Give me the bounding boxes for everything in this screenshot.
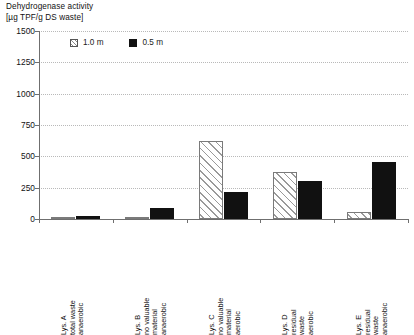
bar-c-05 — [224, 192, 248, 219]
y-tick-label-1000: 1000 — [1, 89, 35, 99]
bar-a-10 — [51, 217, 75, 219]
x-axis-category-labels: Lys. A total waste anaerobicLys. B no va… — [39, 221, 408, 279]
y-tick-label-250: 250 — [1, 183, 35, 193]
chart-title: Dehydrogenase activity [µg TPF/g DS wast… — [6, 2, 93, 23]
x-category-label-b: Lys. B no valuable material anaerobic — [134, 277, 150, 335]
bar-b-10 — [125, 217, 149, 219]
x-category-label-c: Lys. C no valuable material aerobic — [208, 277, 224, 335]
bar-d-10 — [273, 172, 297, 219]
bar-e-05 — [372, 162, 396, 219]
y-tick-label-1500: 1500 — [1, 26, 35, 36]
bars-layer — [39, 31, 408, 219]
bar-d-05 — [298, 181, 322, 219]
bar-e-10 — [347, 212, 371, 219]
y-tick-label-0: 0 — [1, 214, 35, 224]
x-category-label-d: Lys. D residual waste aerobic — [281, 277, 297, 335]
bar-a-05 — [76, 216, 100, 219]
y-tick-label-750: 750 — [1, 120, 35, 130]
bar-b-05 — [150, 208, 174, 219]
x-category-label-e: Lys. E residual waste anaerobic — [355, 277, 371, 335]
y-tick-label-500: 500 — [1, 151, 35, 161]
x-axis-line — [39, 219, 408, 220]
chart-title-text: Dehydrogenase activity [µg TPF/g DS wast… — [6, 2, 93, 22]
bar-c-10 — [199, 141, 223, 219]
y-tick-label-1250: 1250 — [1, 57, 35, 67]
x-tick-mark-end — [408, 219, 409, 223]
x-category-label-a: Lys. A total waste anaerobic — [60, 277, 76, 335]
